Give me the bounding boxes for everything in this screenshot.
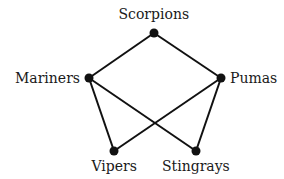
edge-scorpions-mariners [89,33,154,78]
node-stingrays [192,147,201,156]
graph-svg [0,0,284,179]
node-label-pumas: Pumas [230,70,277,86]
node-pumas [217,74,226,83]
edge-mariners-stingrays [89,78,196,151]
node-label-stingrays: Stingrays [162,158,230,174]
edge-pumas-vipers [114,78,221,151]
node-mariners [85,74,94,83]
node-label-mariners: Mariners [15,70,80,86]
edge-pumas-stingrays [196,78,221,151]
node-scorpions [150,29,159,38]
edge-mariners-vipers [89,78,114,151]
node-vipers [110,147,119,156]
node-label-scorpions: Scorpions [119,6,190,22]
edge-scorpions-pumas [154,33,221,78]
node-label-vipers: Vipers [92,158,137,174]
team-graph-diagram: ScorpionsMarinersPumasVipersStingrays [0,0,284,179]
